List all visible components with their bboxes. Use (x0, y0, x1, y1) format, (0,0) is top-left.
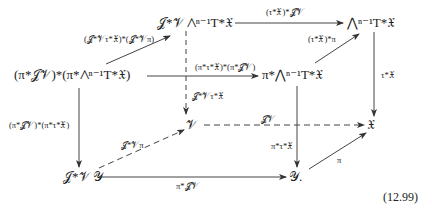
label-left-vertical: (π*𝒥𝒱)*(π*τ*𝔛) (9, 120, 69, 130)
label-top-arrow: (τ*𝔛)*𝒥𝒱 (266, 7, 304, 17)
label-dashed-horizontal: 𝒥𝒱 (261, 114, 275, 124)
label-center-vertical: π*τ*𝔛 (271, 141, 293, 151)
node-V: 𝒱 (186, 118, 197, 132)
label-dashed-vertical: 𝒥*𝒱τ*𝔛 (192, 91, 224, 101)
label-mid-horizontal: (π*τ*𝔛)*(π*𝒥𝒱) (195, 62, 255, 72)
node-mid-left: (π*𝒥𝒱)*(π*⋀ⁿ⁻¹T*𝔛) (14, 68, 130, 82)
label-bottom-arrow: π*𝒥𝒱 (176, 181, 199, 191)
label-diag-top-left: (𝒥*𝒱τ*𝔛)*(𝒥*𝒱π) (84, 34, 154, 44)
node-mid-center: π*⋀ⁿ⁻¹T*𝔛 (262, 68, 323, 82)
label-dashed-diag: 𝒥*𝒱π (121, 140, 144, 150)
node-top-mid: 𝒥*𝒱 ⋀ⁿ⁻¹T*𝔛 (157, 16, 233, 30)
node-top-right: ⋀ⁿ⁻¹T*𝔛 (347, 16, 395, 30)
label-right-vertical: τ*𝔛 (381, 70, 395, 80)
node-Y: 𝒴. (289, 170, 302, 184)
equation-number: (12.99) (383, 190, 418, 205)
label-pi-arrow: π (337, 155, 341, 165)
label-diag-top-right: (τ*𝔛)*π (308, 34, 336, 44)
node-X: 𝔛 (367, 118, 375, 132)
node-bottom-left: 𝒥*𝒱 𝒴 (63, 170, 103, 184)
